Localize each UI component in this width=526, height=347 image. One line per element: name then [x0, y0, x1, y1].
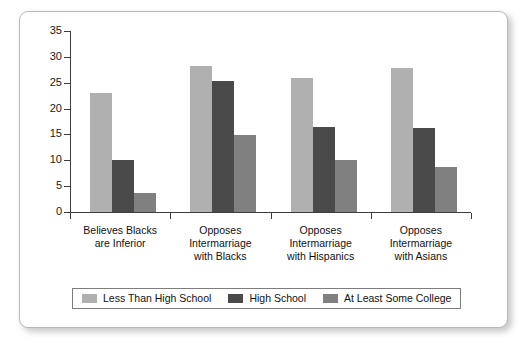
- bar: [134, 193, 156, 212]
- bar: [212, 81, 234, 212]
- bar: [190, 66, 212, 212]
- x-axis-category-label: OpposesIntermarriagewith Hispanics: [271, 224, 371, 263]
- y-tick-label: 10: [34, 154, 62, 165]
- chart-figure: 05101520253035 Believes Blacksare Inferi…: [0, 0, 526, 347]
- y-tick-label: 15: [34, 128, 62, 139]
- legend-entry: At Least Some College: [323, 293, 451, 304]
- x-axis-label-line: with Asians: [371, 250, 471, 263]
- legend-entry: High School: [228, 293, 306, 304]
- x-tick-mark: [271, 213, 272, 219]
- y-tick-label: 0: [34, 206, 62, 217]
- x-axis-label-line: Intermarriage: [170, 237, 270, 250]
- x-axis-label-line: are Inferior: [70, 237, 170, 250]
- bar: [90, 93, 112, 212]
- bar-group: [271, 31, 371, 212]
- legend-label: At Least Some College: [344, 293, 451, 304]
- x-axis-label-line: Intermarriage: [271, 237, 371, 250]
- x-axis-label-line: Opposes: [371, 224, 471, 237]
- x-tick-mark: [371, 213, 372, 219]
- x-tick-mark: [471, 213, 472, 219]
- x-axis-category-label: OpposesIntermarriagewith Asians: [371, 224, 471, 263]
- bar: [435, 167, 457, 212]
- x-axis-label-line: with Hispanics: [271, 250, 371, 263]
- x-tick-mark: [170, 213, 171, 219]
- legend-label: Less Than High School: [103, 293, 211, 304]
- bar: [313, 127, 335, 212]
- x-axis-label-line: Believes Blacks: [70, 224, 170, 237]
- legend-label: High School: [249, 293, 306, 304]
- y-tick-label: 20: [34, 103, 62, 114]
- x-axis-label-line: Opposes: [170, 224, 270, 237]
- bar-group: [70, 31, 170, 212]
- bar-group: [371, 31, 471, 212]
- bar-group: [170, 31, 270, 212]
- legend-color-swatch: [82, 294, 97, 303]
- bar: [413, 128, 435, 212]
- x-tick-mark: [70, 213, 71, 219]
- legend-color-swatch: [323, 294, 338, 303]
- bar: [234, 135, 256, 212]
- bar: [291, 78, 313, 212]
- y-tick-label: 5: [34, 180, 62, 191]
- x-axis-category-label: OpposesIntermarriagewith Blacks: [170, 224, 270, 263]
- x-axis-category-label: Believes Blacksare Inferior: [70, 224, 170, 250]
- legend-color-swatch: [228, 294, 243, 303]
- x-axis-label-line: Intermarriage: [371, 237, 471, 250]
- bar: [335, 160, 357, 212]
- legend-entry: Less Than High School: [82, 293, 211, 304]
- chart-legend: Less Than High SchoolHigh SchoolAt Least…: [72, 288, 461, 309]
- bar: [391, 68, 413, 212]
- y-tick-label: 30: [34, 51, 62, 62]
- bar: [112, 160, 134, 212]
- bar-groups: [70, 31, 471, 212]
- x-axis-label-line: with Blacks: [170, 250, 270, 263]
- y-tick-label: 25: [34, 77, 62, 88]
- x-axis-label-line: Opposes: [271, 224, 371, 237]
- y-tick-label: 35: [34, 25, 62, 36]
